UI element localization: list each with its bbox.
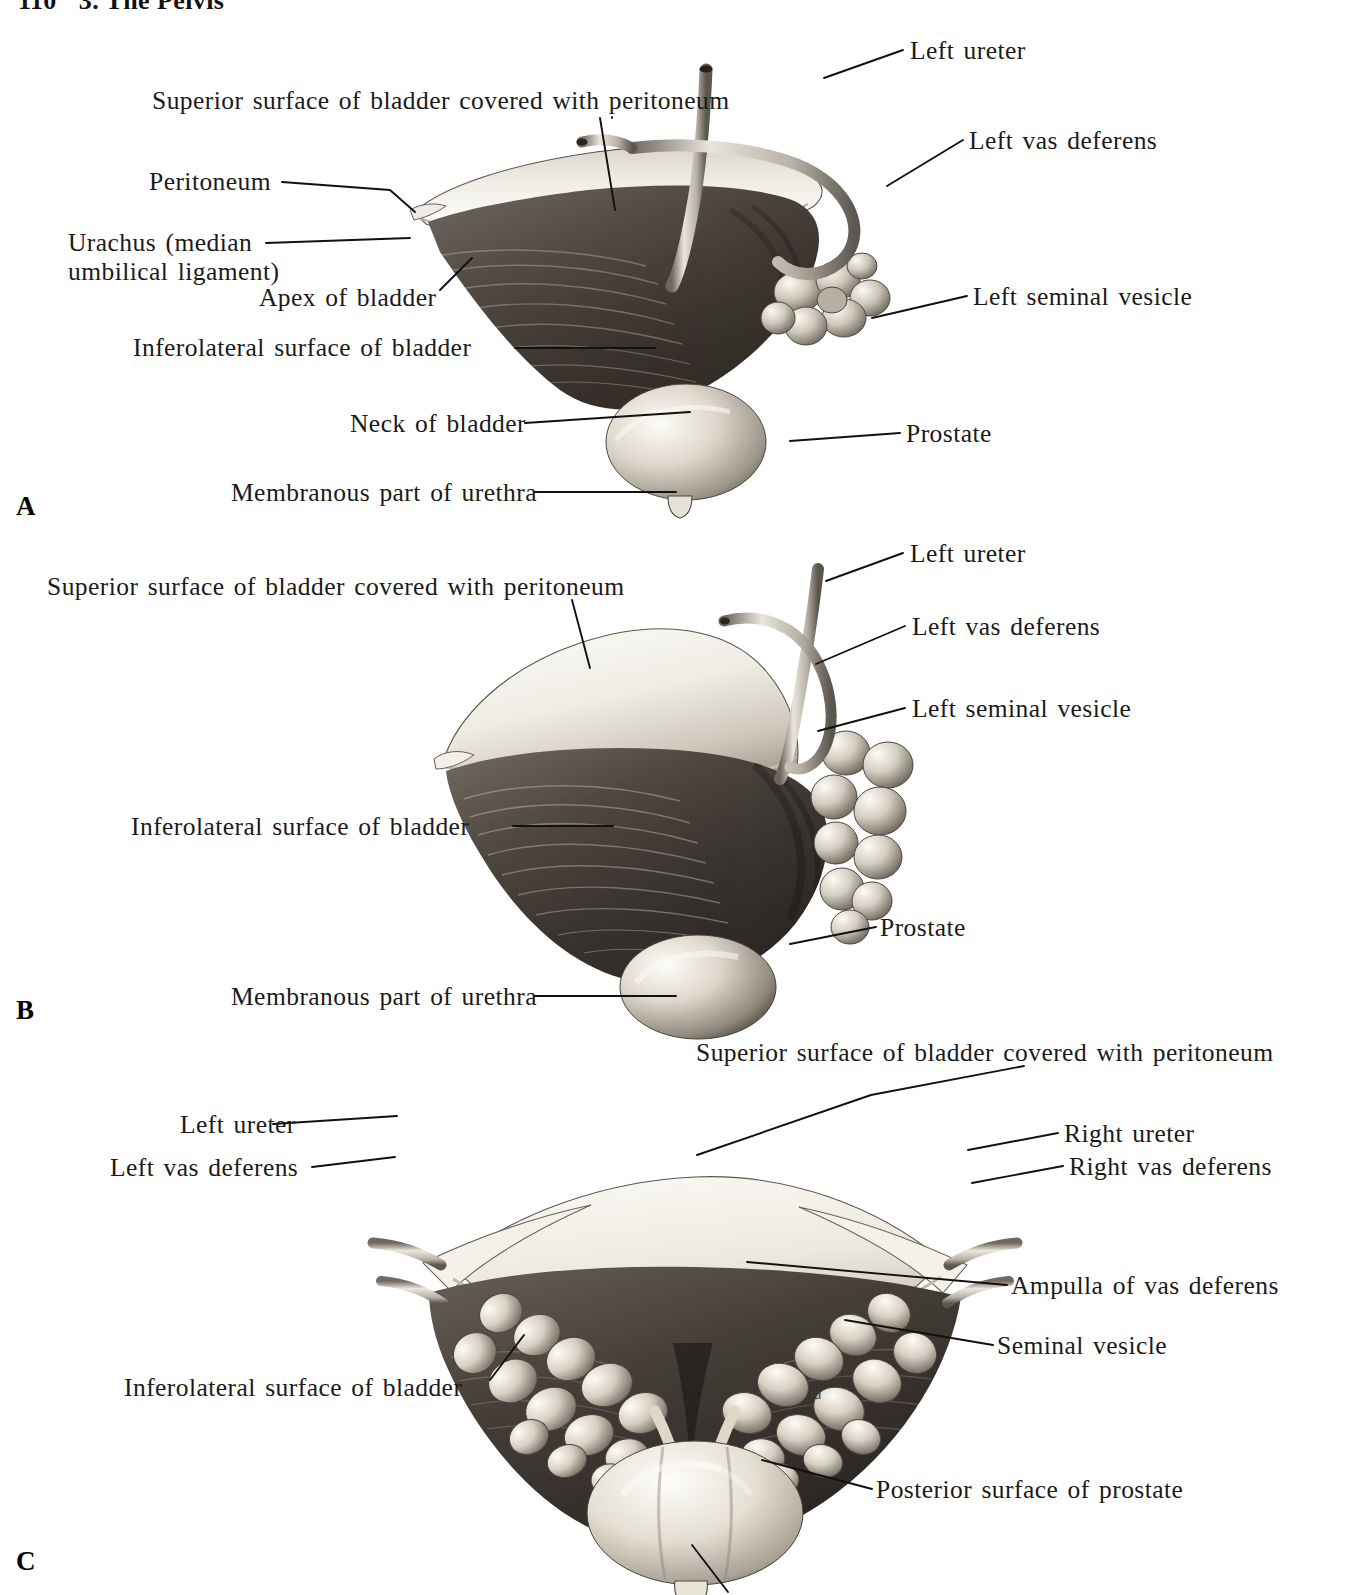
- label-b-left-seminal-vesicle: Left seminal vesicle: [912, 694, 1131, 724]
- label-c-right-ureter: Right ureter: [1064, 1119, 1194, 1149]
- label-c-ampulla-of-vas-deferens: Ampulla of vas deferens: [1011, 1271, 1279, 1301]
- label-a-membranous-urethra: Membranous part of urethra: [231, 478, 537, 508]
- label-a-superior-surface: Superior surface of bladder covered with…: [152, 86, 730, 116]
- label-c-inferolateral-surface: Inferolateral surface of bladder: [124, 1373, 462, 1403]
- label-a-inferolateral-surface: Inferolateral surface of bladder: [133, 333, 471, 363]
- label-c-superior-surface: Superior surface of bladder covered with…: [696, 1038, 1274, 1068]
- label-b-inferolateral-surface: Inferolateral surface of bladder: [131, 812, 469, 842]
- label-a-left-seminal-vesicle: Left seminal vesicle: [973, 282, 1192, 312]
- figure-letter-c: C: [16, 1546, 36, 1577]
- running-head: 1103. The Pelvis: [18, 0, 224, 16]
- label-b-superior-surface: Superior surface of bladder covered with…: [47, 572, 625, 602]
- label-c-right-vas-deferens: Right vas deferens: [1069, 1152, 1272, 1182]
- label-c-left-ureter: Left ureter: [180, 1110, 296, 1140]
- artist-monogram: td: [809, 1385, 821, 1404]
- leader-a-urachus: [266, 238, 410, 243]
- page-folio: 110: [18, 0, 57, 15]
- label-b-left-vas-deferens: Left vas deferens: [912, 612, 1100, 642]
- label-a-urachus: Urachus (median umbilical ligament): [68, 228, 279, 286]
- figure-a-artwork: [400, 60, 920, 520]
- label-a-apex-of-bladder: Apex of bladder: [259, 283, 436, 313]
- label-a-peritoneum: Peritoneum: [149, 167, 271, 197]
- label-a-prostate: Prostate: [906, 419, 992, 449]
- label-c-posterior-surface-prostate: Posterior surface of prostate: [876, 1475, 1183, 1505]
- label-b-prostate: Prostate: [880, 913, 966, 943]
- figure-letter-a: A: [16, 491, 36, 522]
- leader-a-peritoneum: [282, 182, 415, 212]
- label-a-left-vas-deferens: Left vas deferens: [969, 126, 1157, 156]
- label-c-seminal-vesicle: Seminal vesicle: [997, 1331, 1167, 1361]
- label-c-left-vas-deferens: Left vas deferens: [110, 1153, 298, 1183]
- chapter-title: 3. The Pelvis: [79, 0, 225, 15]
- label-b-left-ureter: Left ureter: [910, 539, 1026, 569]
- figure-c-artwork: [355, 1095, 1035, 1595]
- label-b-membranous-urethra: Membranous part of urethra: [231, 982, 537, 1012]
- label-a-left-ureter: Left ureter: [910, 36, 1026, 66]
- label-a-neck-of-bladder: Neck of bladder: [350, 409, 526, 439]
- figure-letter-b: B: [16, 995, 34, 1026]
- figure-b-artwork: [398, 575, 958, 1030]
